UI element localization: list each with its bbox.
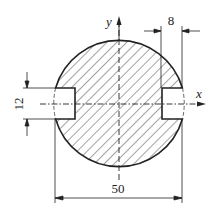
slot-height-label: 12	[11, 98, 26, 111]
y-axis-label: y	[104, 14, 112, 29]
diameter-label: 50	[112, 181, 125, 196]
hatched-section	[40, 30, 200, 180]
y-arrow-icon	[117, 16, 122, 25]
x-arrow-icon	[197, 102, 206, 107]
x-axis-label: x	[195, 86, 202, 101]
slot-depth-label: 8	[168, 13, 175, 28]
cross-section-drawing: y x 12 8 50	[0, 0, 214, 216]
